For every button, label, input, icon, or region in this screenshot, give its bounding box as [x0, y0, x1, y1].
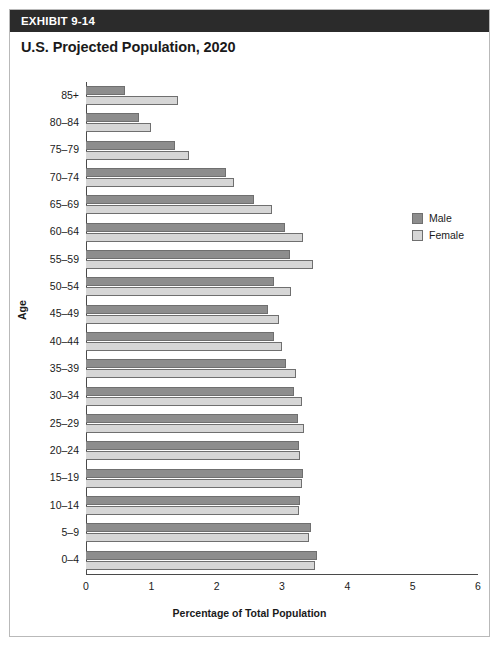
y-axis-tick-label: 65–69 [50, 198, 79, 210]
exhibit-header-bar: EXHIBIT 9-14 [10, 10, 489, 32]
bar-group: 85+ [86, 82, 478, 109]
y-axis-tick-label: 15–19 [50, 471, 79, 483]
bar-male [86, 551, 317, 560]
bar-female [86, 506, 299, 515]
y-axis-tick-label: 25–29 [50, 417, 79, 429]
y-axis-tick-label: 45–49 [50, 307, 79, 319]
bar-group: 70–74 [86, 164, 478, 191]
bar-female [86, 205, 272, 214]
bar-male [86, 86, 125, 95]
bar-male [86, 113, 139, 122]
bar-group: 30–34 [86, 383, 478, 410]
chart-legend: Male Female [412, 212, 464, 246]
x-axis-tick-label: 3 [279, 580, 285, 592]
legend-item-female: Female [412, 229, 464, 241]
bar-female [86, 561, 315, 570]
bar-female [86, 96, 178, 105]
y-axis-tick-label: 5–9 [61, 526, 79, 538]
x-axis-title: Percentage of Total Population [0, 607, 499, 619]
y-axis-tick-label: 85+ [61, 89, 79, 101]
y-axis-tick-label: 20–24 [50, 444, 79, 456]
x-axis-tick-label: 6 [475, 580, 481, 592]
bar-female [86, 451, 300, 460]
bar-female [86, 151, 189, 160]
bar-female [86, 123, 151, 132]
bar-male [86, 250, 290, 259]
x-axis-tick-label: 1 [148, 580, 154, 592]
bar-group: 55–59 [86, 246, 478, 273]
bar-female [86, 260, 313, 269]
bar-group: 75–79 [86, 137, 478, 164]
bar-male [86, 387, 294, 396]
x-axis-line [86, 574, 478, 575]
y-axis-tick-label: 35–39 [50, 362, 79, 374]
bar-male [86, 496, 300, 505]
bar-group: 80–84 [86, 109, 478, 136]
bar-male [86, 277, 274, 286]
bar-female [86, 533, 309, 542]
bar-female [86, 342, 282, 351]
bar-male [86, 223, 285, 232]
bar-male [86, 305, 268, 314]
exhibit-label: EXHIBIT 9-14 [10, 15, 95, 27]
plot-area: 85+80–8475–7970–7465–6960–6455–5950–5445… [86, 82, 478, 574]
y-axis-tick-label: 55–59 [50, 253, 79, 265]
y-axis-tick-label: 10–14 [50, 499, 79, 511]
bar-group: 15–19 [86, 465, 478, 492]
bar-group: 10–14 [86, 492, 478, 519]
bar-male [86, 441, 299, 450]
exhibit-figure: EXHIBIT 9-14 U.S. Projected Population, … [0, 0, 499, 647]
y-axis-tick-label: 50–54 [50, 280, 79, 292]
bar-male [86, 469, 303, 478]
x-axis-tick-label: 0 [83, 580, 89, 592]
y-axis-tick-label: 30–34 [50, 389, 79, 401]
y-axis-tick-label: 0–4 [61, 553, 79, 565]
y-axis-title: Age [16, 300, 28, 320]
legend-swatch-male-icon [412, 213, 423, 224]
y-axis-tick-label: 80–84 [50, 116, 79, 128]
y-axis-tick-label: 60–64 [50, 225, 79, 237]
bar-group: 35–39 [86, 355, 478, 382]
chart-title: U.S. Projected Population, 2020 [21, 39, 235, 55]
bar-group: 50–54 [86, 273, 478, 300]
bar-female [86, 178, 234, 187]
x-axis-tick-label: 5 [410, 580, 416, 592]
y-axis-tick-label: 75–79 [50, 143, 79, 155]
bar-male [86, 141, 175, 150]
legend-swatch-female-icon [412, 230, 423, 241]
bar-group: 25–29 [86, 410, 478, 437]
bar-male [86, 359, 286, 368]
legend-label-female: Female [429, 229, 464, 241]
bar-female [86, 397, 302, 406]
y-axis-tick-label: 70–74 [50, 171, 79, 183]
bar-male [86, 332, 274, 341]
x-axis-tick-label: 2 [214, 580, 220, 592]
bar-female [86, 287, 291, 296]
legend-label-male: Male [429, 212, 452, 224]
bar-female [86, 315, 279, 324]
y-axis-tick-label: 40–44 [50, 335, 79, 347]
bar-group: 20–24 [86, 437, 478, 464]
bar-female [86, 369, 296, 378]
bar-group: 5–9 [86, 519, 478, 546]
bar-group: 0–4 [86, 547, 478, 574]
bar-group: 45–49 [86, 301, 478, 328]
bar-male [86, 168, 226, 177]
bar-male [86, 414, 298, 423]
bar-female [86, 424, 304, 433]
bar-male [86, 523, 311, 532]
bar-group: 40–44 [86, 328, 478, 355]
legend-item-male: Male [412, 212, 464, 224]
bar-female [86, 233, 303, 242]
x-axis-tick-label: 4 [344, 580, 350, 592]
bar-male [86, 195, 254, 204]
bar-female [86, 479, 302, 488]
